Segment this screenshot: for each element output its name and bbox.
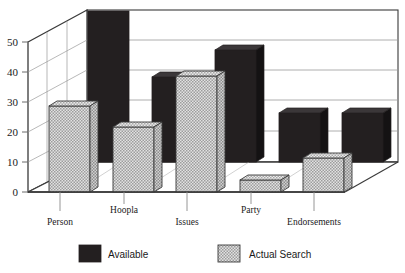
bar-actual-issues (176, 71, 225, 192)
y-tick-label-10: 10 (7, 156, 19, 168)
cat-label-endorsements: Endorsements (287, 217, 341, 227)
legend-swatch-actual-search (218, 245, 240, 262)
bar-actual-party (240, 175, 289, 192)
legend-label-available: Available (108, 249, 149, 260)
chart-root: 50 40 30 20 10 0 (0, 0, 405, 273)
y-tick-label-40: 40 (7, 66, 19, 78)
legend-swatch-available (79, 245, 101, 262)
y-tick-label-50: 50 (7, 36, 19, 48)
legend-label-actual-search: Actual Search (249, 249, 311, 260)
cat-label-party: Party (241, 205, 261, 215)
bar-chart-3d: 50 40 30 20 10 0 (0, 0, 405, 273)
y-tick-label-30: 30 (7, 96, 19, 108)
bar-actual-endorsements (303, 153, 352, 192)
y-tick-label-0: 0 (13, 186, 19, 198)
y-tick-label-20: 20 (7, 126, 19, 138)
cat-label-hoopla: Hoopla (110, 205, 139, 215)
cat-label-person: Person (47, 217, 73, 227)
bar-actual-hoopla (113, 122, 162, 192)
bar-actual-person (49, 101, 98, 192)
cat-label-issues: Issues (175, 217, 199, 227)
